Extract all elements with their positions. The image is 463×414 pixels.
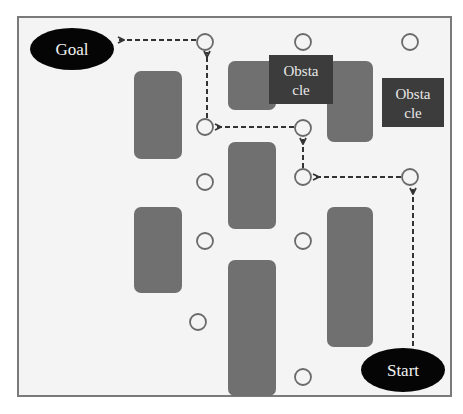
waypoint-node-icon	[197, 233, 213, 249]
waypoint-node-icon	[197, 174, 213, 190]
obstacle-block	[228, 142, 276, 229]
waypoint-node-icon	[402, 169, 418, 185]
obstacle-block	[134, 71, 182, 159]
obstacle-label-line1: Obsta	[396, 86, 431, 102]
start-label: Start	[387, 361, 419, 380]
waypoint-node-icon	[295, 369, 311, 385]
waypoint-node-icon	[190, 314, 206, 330]
obstacle-block	[327, 61, 373, 142]
waypoint-node-icon	[197, 34, 213, 50]
goal-terminal: Goal	[30, 28, 114, 70]
labeled-obstacle: Obstacle	[269, 55, 333, 104]
diagram-canvas: ObstacleObstacle Goal Start	[0, 0, 463, 414]
waypoint-node-icon	[402, 34, 418, 50]
obstacle-block	[134, 207, 182, 293]
obstacle-label-line2: cle	[292, 82, 310, 98]
waypoint-node-icon	[295, 34, 311, 50]
path-planning-diagram: ObstacleObstacle Goal Start	[0, 0, 463, 414]
waypoint-node-icon	[295, 233, 311, 249]
obstacle-block	[228, 61, 276, 110]
labeled-obstacle: Obstacle	[382, 78, 444, 127]
waypoint-node-icon	[295, 120, 311, 136]
start-terminal: Start	[361, 348, 445, 392]
waypoint-node-icon	[197, 119, 213, 135]
obstacle-block	[228, 260, 276, 396]
obstacle-label-line1: Obsta	[284, 63, 319, 79]
obstacle-block	[327, 207, 373, 347]
obstacle-label-line2: cle	[404, 105, 422, 121]
goal-label: Goal	[55, 40, 88, 59]
waypoint-node-icon	[295, 169, 311, 185]
